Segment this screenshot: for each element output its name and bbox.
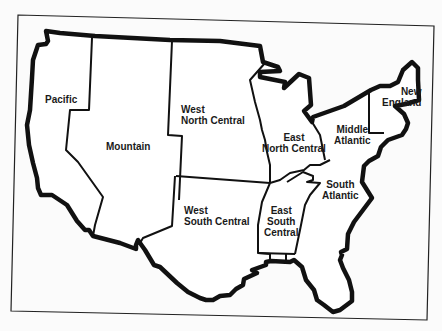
region-label-mountain: Mountain [106,141,150,152]
region-label-line: East [264,205,298,216]
region-label-new-england: New England [382,86,421,108]
region-label-east-south-central: East South Central [264,205,298,238]
region-label-line: West [184,205,250,216]
region-label-line: North Central [181,115,245,126]
region-label-line: England [382,97,421,108]
region-label-line: West [181,104,245,115]
region-label-middle-atlantic: Middle Atlantic [334,124,371,146]
region-label-south-atlantic: South Atlantic [322,179,359,201]
region-label-line: Middle [334,124,371,135]
region-label-west-north-central: West North Central [181,104,245,126]
region-label-line: South [264,216,298,227]
region-label-line: East [262,132,326,143]
region-label-line: South [322,179,359,190]
region-label-line: South Central [184,216,250,227]
region-label-line: New [382,86,421,97]
region-label-line: North Central [262,143,326,154]
region-label-line: Atlantic [334,135,371,146]
region-label-line: Atlantic [322,190,359,201]
region-label-east-north-central: East North Central [262,132,326,154]
us-census-map [0,0,442,331]
region-label-pacific: Pacific [45,94,77,105]
region-label-line: Central [264,227,298,238]
region-label-west-south-central: West South Central [184,205,250,227]
